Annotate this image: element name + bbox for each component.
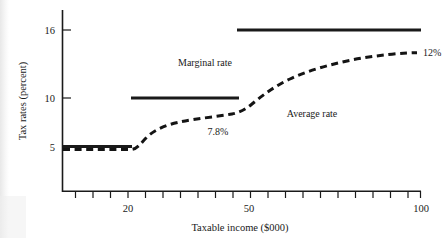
- average-value-label: 7.8%: [208, 126, 229, 137]
- y-axis-title: Tax rates (percent): [17, 61, 29, 140]
- x-tick-label-20: 20: [123, 203, 134, 214]
- x-axis-title: Taxable income ($000): [191, 222, 289, 234]
- chart-canvas: 16 10 5 Tax rates (percent): [0, 0, 447, 238]
- tax-rates-chart: 16 10 5 Tax rates (percent): [0, 0, 447, 238]
- x-tick-label-100: 100: [413, 203, 429, 214]
- y-tick-label-10: 10: [45, 93, 56, 104]
- x-tick-label-50: 50: [244, 203, 255, 214]
- marginal-rate-label: Marginal rate: [178, 57, 233, 68]
- average-rate-label: Average rate: [287, 108, 338, 119]
- endpoint-value-label: 12%: [423, 47, 441, 58]
- y-tick-label-16: 16: [45, 25, 56, 36]
- x-tick-marks: [76, 191, 421, 198]
- average-rate-curve: [63, 53, 417, 150]
- y-tick-label-5: 5: [50, 142, 55, 153]
